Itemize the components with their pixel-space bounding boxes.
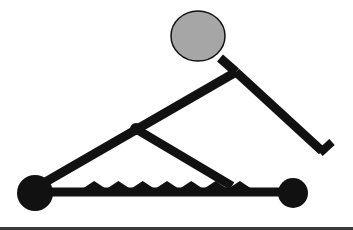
head bbox=[171, 11, 225, 61]
neck-segment bbox=[220, 58, 236, 72]
bottom-rule bbox=[0, 227, 353, 230]
arm-segment bbox=[236, 72, 322, 151]
shin-segment bbox=[136, 129, 232, 186]
hand-segment bbox=[320, 142, 332, 153]
right-wheel bbox=[278, 178, 308, 208]
knee-joint bbox=[130, 123, 142, 135]
left-wheel bbox=[17, 175, 53, 211]
rowing-machine-diagram bbox=[0, 0, 353, 230]
